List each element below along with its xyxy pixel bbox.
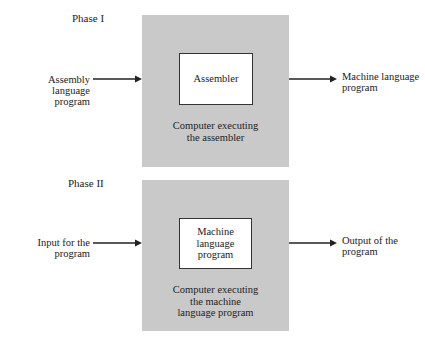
- phase-1-title: Phase I: [72, 12, 104, 24]
- phase-1-computer-box: Assembler Computer executing the assembl…: [142, 15, 289, 167]
- phase-2-input-label: Input for the program: [8, 237, 90, 259]
- phase-1-input-arrow-icon: [93, 74, 143, 84]
- phase-1-output-arrow-icon: [289, 74, 339, 84]
- phase-2-computer-box: Machine language program Computer execut…: [142, 180, 289, 331]
- phase-2-title: Phase II: [68, 177, 104, 189]
- phase-2-caption: Computer executing the machine language …: [142, 284, 289, 319]
- phase-1-assembler-box: Assembler: [179, 53, 253, 105]
- phase-1-caption: Computer executing the assembler: [142, 120, 289, 143]
- phase-2-output-label: Output of the program: [342, 235, 424, 257]
- phase-1-input-label: Assembly language program: [8, 74, 90, 107]
- phase-2-machine-program-box: Machine language program: [179, 218, 252, 269]
- phase-2-output-arrow-icon: [289, 238, 339, 248]
- phase-2-input-arrow-icon: [93, 238, 143, 248]
- phase-1-output-label: Machine language program: [342, 71, 424, 93]
